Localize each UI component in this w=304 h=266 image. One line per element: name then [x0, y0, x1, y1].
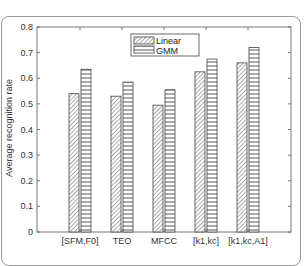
x-tick-label: MFCC — [151, 236, 177, 246]
y-tick-label: 0.2 — [20, 176, 33, 186]
legend-swatch-gmm — [134, 46, 154, 53]
legend-swatch-linear — [134, 37, 154, 44]
legend-label-linear: Linear — [156, 36, 181, 46]
bar-linear — [111, 96, 121, 232]
y-tick-label: 0.5 — [20, 99, 33, 109]
x-tick-label: [SFM,F0] — [61, 236, 98, 246]
y-tick-label: 0.1 — [20, 201, 33, 211]
bar-gmm — [207, 59, 217, 232]
bar-linear — [153, 105, 163, 232]
x-tick-label: [k1,kc] — [193, 236, 219, 246]
svg-text:Average recognition rate: Average recognition rate — [4, 79, 14, 177]
bar-gmm — [165, 90, 175, 232]
bar-gmm — [123, 82, 133, 232]
bar-linear — [69, 94, 79, 232]
y-tick-label: 0.8 — [20, 22, 33, 32]
y-tick-label: 0 — [28, 227, 33, 237]
x-tick-label: TEO — [113, 236, 132, 246]
bar-gmm — [249, 48, 259, 233]
legend: Linear GMM — [131, 34, 199, 56]
bar-linear — [195, 72, 205, 232]
y-tick-label: 0.3 — [20, 150, 33, 160]
y-tick-label: 0.4 — [20, 125, 33, 135]
legend-label-gmm: GMM — [156, 46, 178, 56]
y-tick-label: 0.7 — [20, 48, 33, 58]
bar-gmm — [81, 69, 91, 232]
x-tick-label: [k1,kc,A1] — [228, 236, 268, 246]
y-tick-label: 0.6 — [20, 73, 33, 83]
bar-linear — [237, 63, 247, 232]
y-axis-label: Average recognition rate — [4, 79, 14, 177]
